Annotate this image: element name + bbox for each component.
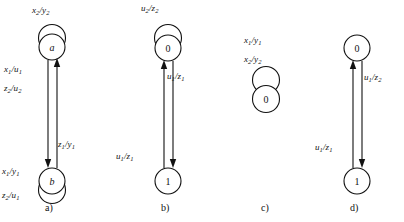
diagram-a-graphics: a b	[0, 0, 110, 222]
state-label-b: b	[50, 176, 55, 187]
diagram-a: a b x2/y2 x1/u1 z2/u2 z1/y1 x1/y1 z2/u1 …	[0, 0, 110, 222]
transition-label-up: z1/y1	[58, 140, 75, 149]
self-loop-label-top: u2/z2	[141, 4, 159, 13]
state-label-1: 1	[166, 176, 171, 187]
diagram-b-graphics: 0 1	[110, 0, 230, 222]
arrowhead-0-to-1	[359, 159, 365, 168]
caption-d: d)	[350, 202, 358, 213]
self-loop-label-top: x2/y2	[32, 6, 50, 15]
state-label-a: a	[50, 42, 55, 53]
state-label-0: 0	[264, 94, 269, 105]
caption-c: c)	[261, 202, 269, 213]
caption-b: b)	[161, 202, 169, 213]
self-loop-label-2: x2/y2	[244, 55, 262, 64]
self-loop-label-bottom-1: x1/y1	[2, 167, 20, 176]
state-label-0: 0	[355, 43, 360, 54]
transition-label-up: u1/z1	[116, 152, 134, 161]
caption-a: a)	[45, 202, 53, 213]
transition-label-up: u1/z1	[315, 143, 333, 152]
diagram-b: 0 1 u2/z2 u1/z1 u1/z1 b)	[110, 0, 230, 222]
diagram-d: 0 1 u1/z2 u1/z1 d)	[310, 0, 404, 222]
transition-label-down: u1/z1	[167, 72, 185, 81]
arrowhead-a-to-b	[45, 159, 51, 168]
self-loop-label-1: x1/y1	[244, 36, 262, 45]
diagram-c-graphics: 0	[230, 0, 310, 222]
transition-label-down-1: x1/u1	[4, 65, 22, 74]
transition-label-down: u1/z2	[364, 73, 382, 82]
state-label-1: 1	[355, 176, 360, 187]
arrowhead-0-to-1	[170, 159, 176, 168]
diagram-d-graphics: 0 1	[310, 0, 404, 222]
diagram-c: 0 x1/y1 x2/y2 c)	[230, 0, 310, 222]
figure-canvas: a b x2/y2 x1/u1 z2/u2 z1/y1 x1/y1 z2/u1 …	[0, 0, 404, 222]
self-loop-label-bottom-2: z2/u1	[2, 191, 20, 200]
transition-label-down-2: z2/u2	[4, 84, 22, 93]
state-label-0: 0	[166, 43, 171, 54]
